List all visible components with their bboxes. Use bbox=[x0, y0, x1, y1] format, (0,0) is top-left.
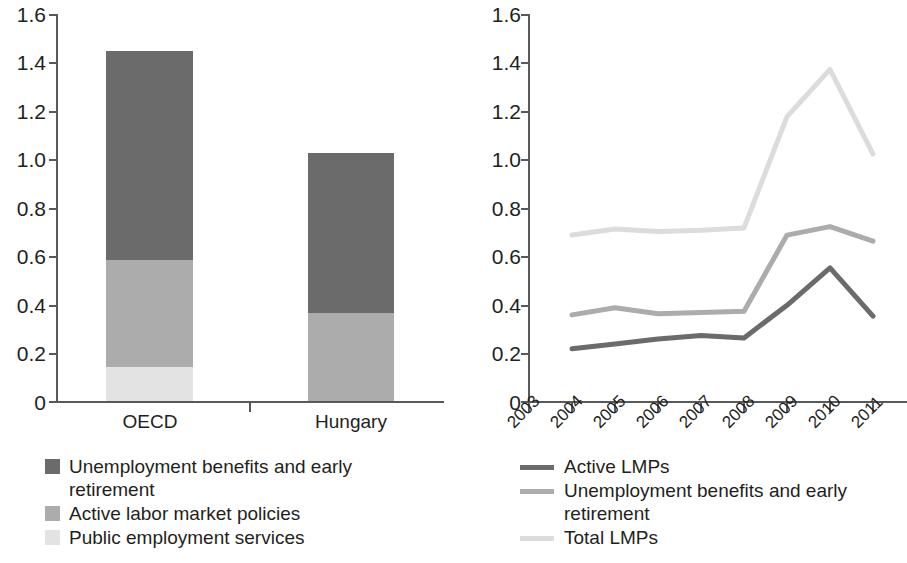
bar-ytick-label: 1.4 bbox=[0, 52, 46, 73]
bar-ytick-label: 0.6 bbox=[0, 246, 46, 267]
line-chart-legend: Active LMPs Unemployment benefits and ea… bbox=[520, 455, 900, 550]
legend-item-public-employment-services: Public employment services bbox=[45, 526, 445, 549]
legend-label: Unemployment benefits and early retireme… bbox=[69, 455, 399, 501]
bar-category-label-hungary: Hungary bbox=[290, 411, 412, 432]
line-series-total-lmps bbox=[572, 69, 873, 235]
legend-line-medium-gray-icon bbox=[520, 489, 554, 494]
legend-item-unemployment-benefits: Unemployment benefits and early retireme… bbox=[520, 479, 900, 525]
bar-segment-unemployment-benefits-hungary bbox=[308, 153, 394, 313]
bar-y-tick bbox=[49, 256, 57, 258]
legend-label: Public employment services bbox=[69, 526, 304, 549]
legend-swatch-dark-gray-icon bbox=[45, 459, 60, 474]
bar-ytick-label: 0.4 bbox=[0, 295, 46, 316]
bar-y-tick bbox=[49, 353, 57, 355]
bar-y-tick bbox=[49, 111, 57, 113]
bar-ytick-label: 0.2 bbox=[0, 343, 46, 364]
bar-ytick-label: 1.2 bbox=[0, 101, 46, 122]
figure-root: 1.6 1.4 1.2 1.0 0.8 0.6 0.4 0.2 0 OECD H… bbox=[0, 0, 907, 563]
bar-y-tick bbox=[49, 208, 57, 210]
bar-segment-active-labor-market-policies-oecd bbox=[106, 260, 193, 367]
bar-ytick-label: 1.0 bbox=[0, 149, 46, 170]
legend-label: Unemployment benefits and early retireme… bbox=[564, 479, 894, 525]
bar-segment-active-labor-market-policies-hungary bbox=[308, 313, 394, 401]
legend-swatch-medium-gray-icon bbox=[45, 506, 60, 521]
bar-segment-public-employment-services-oecd bbox=[106, 367, 193, 401]
legend-item-unemployment-benefits: Unemployment benefits and early retireme… bbox=[45, 455, 445, 501]
bar-ytick-label: 1.6 bbox=[0, 4, 46, 25]
stacked-bar-chart: 1.6 1.4 1.2 1.0 0.8 0.6 0.4 0.2 0 OECD H… bbox=[0, 0, 460, 563]
bar-y-tick bbox=[49, 159, 57, 161]
legend-line-light-gray-icon bbox=[520, 536, 554, 541]
bar-y-tick bbox=[49, 14, 57, 16]
legend-item-active-labor-market-policies: Active labor market policies bbox=[45, 502, 445, 525]
legend-label: Total LMPs bbox=[564, 526, 658, 549]
legend-item-active-lmps: Active LMPs bbox=[520, 455, 900, 478]
bar-chart-legend: Unemployment benefits and early retireme… bbox=[45, 455, 445, 550]
bar-category-label-oecd: OECD bbox=[89, 411, 211, 432]
line-series-canvas bbox=[460, 0, 907, 420]
bar-y-tick bbox=[49, 305, 57, 307]
bar-ytick-label: 0 bbox=[0, 392, 46, 413]
bar-ytick-label: 0.8 bbox=[0, 198, 46, 219]
bar-y-tick bbox=[49, 62, 57, 64]
legend-swatch-light-gray-icon bbox=[45, 530, 60, 545]
legend-item-total-lmps: Total LMPs bbox=[520, 526, 900, 549]
bar-x-category-separator-tick bbox=[249, 403, 251, 412]
legend-line-dark-gray-icon bbox=[520, 465, 554, 470]
bar-segment-unemployment-benefits-oecd bbox=[106, 51, 193, 260]
legend-label: Active LMPs bbox=[564, 455, 670, 478]
legend-label: Active labor market policies bbox=[69, 502, 300, 525]
line-chart: 1.6 1.4 1.2 1.0 0.8 0.6 0.4 0.2 0 2003 bbox=[460, 0, 907, 563]
